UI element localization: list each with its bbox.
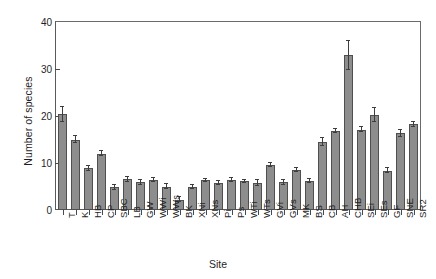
x-tick-mark bbox=[102, 210, 103, 215]
error-bar-cap-upper bbox=[60, 106, 64, 107]
bar-group bbox=[71, 22, 79, 210]
error-bar-cap-lower bbox=[125, 181, 129, 182]
x-tick-mark bbox=[375, 210, 376, 215]
x-tick-label: SBC bbox=[118, 198, 129, 218]
error-bar-cap-upper bbox=[203, 178, 207, 179]
bar-group bbox=[97, 22, 105, 210]
bar-group bbox=[227, 22, 235, 210]
error-bar-cap-upper bbox=[112, 184, 116, 185]
bar bbox=[318, 142, 326, 210]
error-bar-cap-lower bbox=[164, 188, 168, 189]
error-bar-cap-upper bbox=[268, 162, 272, 163]
bar bbox=[331, 131, 339, 210]
error-bar-cap-lower bbox=[216, 184, 220, 185]
bar-group bbox=[58, 22, 66, 210]
bar-group bbox=[370, 22, 378, 210]
error-bar-cap-lower bbox=[255, 185, 259, 186]
error-bar-cap-lower bbox=[190, 188, 194, 189]
x-tick-mark bbox=[336, 210, 337, 215]
error-bar-cap-lower bbox=[73, 142, 77, 143]
error-bar-cap-upper bbox=[346, 40, 350, 41]
error-bar-cap-upper bbox=[411, 121, 415, 122]
x-tick-mark bbox=[63, 210, 64, 215]
error-bar-cap-lower bbox=[320, 145, 324, 146]
bar-group bbox=[396, 22, 404, 210]
error-bar-cap-upper bbox=[99, 150, 103, 151]
x-tick-mark bbox=[76, 210, 77, 215]
x-tick-label: SR2 bbox=[417, 199, 428, 218]
bar bbox=[97, 154, 105, 210]
error-bar-cap-lower bbox=[203, 181, 207, 182]
bar bbox=[370, 115, 378, 210]
x-tick-mark bbox=[414, 210, 415, 215]
error-bar-cap-upper bbox=[190, 184, 194, 185]
error-bar-cap-upper bbox=[372, 107, 376, 108]
bar-group bbox=[383, 22, 391, 210]
error-bar-cap-upper bbox=[216, 180, 220, 181]
x-tick-mark bbox=[271, 210, 272, 215]
x-tick-mark bbox=[115, 210, 116, 215]
error-bar-cap-lower bbox=[385, 172, 389, 173]
bar-group bbox=[110, 22, 118, 210]
x-tick-label: GVs bbox=[287, 199, 298, 218]
bar-group bbox=[149, 22, 157, 210]
error-bar-cap-lower bbox=[359, 131, 363, 132]
x-tick-mark bbox=[323, 210, 324, 215]
bar bbox=[71, 140, 79, 211]
x-tick-mark bbox=[245, 210, 246, 215]
bar bbox=[409, 124, 417, 210]
bar-group bbox=[318, 22, 326, 210]
bars-layer bbox=[56, 22, 420, 210]
error-bar bbox=[348, 41, 349, 70]
bar-group bbox=[188, 22, 196, 210]
y-tick-label: 20 bbox=[12, 111, 52, 122]
error-bar bbox=[374, 108, 375, 122]
x-tick-mark bbox=[258, 210, 259, 215]
error-bar-cap-lower bbox=[372, 121, 376, 122]
bar-group bbox=[357, 22, 365, 210]
error-bar-cap-lower bbox=[268, 166, 272, 167]
x-tick-mark bbox=[180, 210, 181, 215]
x-tick-mark bbox=[362, 210, 363, 215]
bar-group bbox=[123, 22, 131, 210]
bar-group bbox=[162, 22, 170, 210]
error-bar-cap-upper bbox=[333, 128, 337, 129]
error-bar-cap-lower bbox=[229, 181, 233, 182]
bar-group bbox=[305, 22, 313, 210]
error-bar-cap-lower bbox=[346, 69, 350, 70]
error-bar-cap-lower bbox=[294, 171, 298, 172]
x-tick-mark bbox=[232, 210, 233, 215]
bar-group bbox=[253, 22, 261, 210]
error-bar-cap-lower bbox=[60, 121, 64, 122]
error-bar-cap-lower bbox=[242, 182, 246, 183]
error-bar-cap-upper bbox=[385, 167, 389, 168]
x-tick-label: SNE bbox=[404, 198, 415, 218]
error-bar bbox=[62, 107, 63, 122]
error-bar-cap-lower bbox=[112, 189, 116, 190]
error-bar-cap-upper bbox=[229, 177, 233, 178]
error-bar-cap-lower bbox=[151, 181, 155, 182]
error-bar-cap-upper bbox=[320, 137, 324, 138]
error-bar-cap-upper bbox=[398, 129, 402, 130]
bar bbox=[58, 114, 66, 210]
x-tick-mark bbox=[297, 210, 298, 215]
bar-group bbox=[84, 22, 92, 210]
error-bar-cap-upper bbox=[164, 183, 168, 184]
y-tick-label: 30 bbox=[12, 64, 52, 75]
bar-group bbox=[292, 22, 300, 210]
bar-group bbox=[201, 22, 209, 210]
error-bar-cap-upper bbox=[255, 179, 259, 180]
bar-group bbox=[214, 22, 222, 210]
error-bar-cap-upper bbox=[281, 179, 285, 180]
x-tick-mark bbox=[141, 210, 142, 215]
bar-group bbox=[344, 22, 352, 210]
x-tick-mark bbox=[219, 210, 220, 215]
error-bar-cap-lower bbox=[333, 132, 337, 133]
error-bar-cap-upper bbox=[125, 176, 129, 177]
x-tick-mark bbox=[388, 210, 389, 215]
error-bar-cap-upper bbox=[307, 178, 311, 179]
error-bar-cap-lower bbox=[281, 184, 285, 185]
error-bar-cap-upper bbox=[151, 177, 155, 178]
error-bar-cap-lower bbox=[138, 184, 142, 185]
error-bar-cap-upper bbox=[242, 179, 246, 180]
